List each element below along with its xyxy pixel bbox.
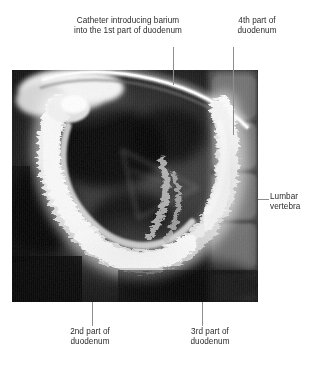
leader-line-lumbar-vertebra bbox=[258, 199, 269, 200]
film-grain bbox=[12, 70, 258, 302]
label-fourth-part: 4th part of duodenum bbox=[214, 16, 300, 37]
leader-line-catheter bbox=[173, 47, 174, 85]
xray-canvas bbox=[12, 70, 258, 302]
leader-line-fourth-part bbox=[233, 47, 234, 135]
leader-line-third-part bbox=[202, 302, 203, 326]
leader-line-second-part bbox=[92, 302, 93, 326]
label-catheter: Catheter introducing barium into the 1st… bbox=[48, 16, 208, 37]
label-second-part: 2nd part of duodenum bbox=[30, 327, 150, 348]
annotated-radiograph-figure: Catheter introducing barium into the 1st… bbox=[0, 0, 319, 371]
label-third-part: 3rd part of duodenum bbox=[150, 327, 270, 348]
label-lumbar-vertebra: Lumbar vertebra bbox=[270, 192, 318, 213]
xray-image bbox=[12, 70, 258, 302]
